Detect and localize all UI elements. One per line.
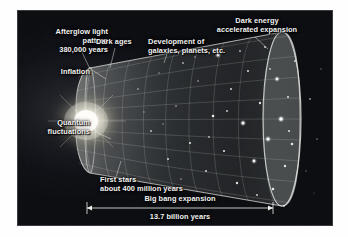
label-development-of-galaxies: Development of galaxies, planets, etc. <box>148 37 225 55</box>
universe-timeline-figure: Afterglow light pattern 380,000 years Da… <box>0 0 348 237</box>
label-universe-age: 13.7 billion years <box>119 212 241 221</box>
label-dark-ages: Dark ages <box>96 37 132 46</box>
label-dark-energy: Dark energy accelerated expansion <box>196 16 318 34</box>
label-big-bang-expansion: Big bang expansion <box>119 194 241 203</box>
label-quantum-fluctuations: Quantum fluctuations <box>22 118 90 136</box>
diagram-plate: Afterglow light pattern 380,000 years Da… <box>17 10 333 226</box>
label-inflation: Inflation <box>22 67 90 76</box>
label-first-stars: First stars about 400 million years <box>100 175 183 193</box>
background-stars <box>305 68 321 193</box>
